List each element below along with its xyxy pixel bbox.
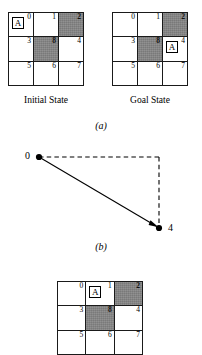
grid-cell[interactable]: 7	[163, 62, 187, 85]
grid-cell[interactable]: 6	[86, 331, 113, 354]
grid-cell[interactable]: 7	[115, 331, 142, 354]
grid-cell[interactable]: 6	[138, 62, 162, 85]
graph-node-4-label: 4	[168, 222, 173, 234]
panel-label-b: (b)	[0, 241, 202, 253]
grid-cell[interactable]: 5	[9, 62, 33, 85]
cell-number: 8	[108, 305, 112, 314]
grid-goal-state: 0 1 2 3 8 4 A 5 6 7	[112, 12, 188, 86]
cell-number: 4	[77, 36, 81, 45]
grid-cell[interactable]: 3	[113, 37, 137, 60]
cell-number: 0	[131, 12, 135, 21]
cell-number: 3	[27, 36, 31, 45]
cell-number: 2	[77, 12, 81, 21]
agent-marker: A	[12, 17, 24, 29]
cell-number: 0	[80, 281, 84, 290]
grid-cell[interactable]: 0 A	[9, 13, 33, 36]
grid-cell[interactable]: 0	[58, 282, 85, 305]
graph-node-0-label: 0	[25, 150, 30, 162]
cell-number: 7	[181, 61, 185, 70]
grid-cell[interactable]: 1 A	[86, 282, 113, 305]
grid-cell-obstacle[interactable]: 2	[59, 13, 83, 36]
graph-node-4[interactable]	[156, 225, 162, 231]
cell-number: 6	[108, 330, 112, 339]
cell-number: 8	[52, 36, 56, 45]
cell-number: 4	[181, 36, 185, 45]
grid-cell[interactable]: 6	[34, 62, 58, 85]
grid-cell[interactable]: 7	[59, 62, 83, 85]
cell-number: 1	[108, 281, 112, 290]
cell-number: 8	[156, 36, 160, 45]
cell-number: 7	[136, 330, 140, 339]
grid-cell[interactable]: 0	[113, 13, 137, 36]
cell-number: 5	[80, 330, 84, 339]
cell-number: 6	[52, 61, 56, 70]
agent-marker: A	[89, 286, 101, 298]
cell-number: 3	[131, 36, 135, 45]
grid-cell[interactable]: 4 A	[163, 37, 187, 60]
cell-number: 1	[156, 12, 160, 21]
grid-cell[interactable]: 1	[34, 13, 58, 36]
solid-edge-0-to-4	[39, 157, 156, 226]
grid-cell-obstacle[interactable]: 2	[163, 13, 187, 36]
cell-number: 2	[136, 281, 140, 290]
cell-number: 7	[77, 61, 81, 70]
grid-cell[interactable]: 4	[59, 37, 83, 60]
grid-cell-obstacle[interactable]: 8	[34, 37, 58, 60]
grid-initial-state: 0 A 1 2 3 8 4 5 6 7	[8, 12, 84, 86]
cell-number: 5	[27, 61, 31, 70]
grid-cell[interactable]: 4	[115, 306, 142, 329]
cell-number: 3	[80, 305, 84, 314]
grid-cell[interactable]: 1	[138, 13, 162, 36]
grid-cell-obstacle[interactable]: 8	[86, 306, 113, 329]
grid-cell-obstacle[interactable]: 8	[138, 37, 162, 60]
caption-initial-state: Initial State	[8, 94, 84, 106]
cell-number: 6	[156, 61, 160, 70]
grid-cell[interactable]: 5	[58, 331, 85, 354]
panel-label-a: (a)	[0, 120, 202, 132]
grid-bottom-state: 0 1 A 2 3 8 4 5 6 7	[57, 281, 143, 355]
cell-number: 0	[27, 12, 31, 21]
cell-number: 2	[181, 12, 185, 21]
cell-number: 5	[131, 61, 135, 70]
grid-cell[interactable]: 5	[113, 62, 137, 85]
cell-number: 1	[52, 12, 56, 21]
grid-cell[interactable]: 3	[58, 306, 85, 329]
graph-node-0[interactable]	[36, 154, 42, 160]
agent-marker: A	[166, 41, 178, 53]
grid-cell-obstacle[interactable]: 2	[115, 282, 142, 305]
cell-number: 4	[136, 305, 140, 314]
grid-cell[interactable]: 3	[9, 37, 33, 60]
caption-goal-state: Goal State	[112, 94, 188, 106]
